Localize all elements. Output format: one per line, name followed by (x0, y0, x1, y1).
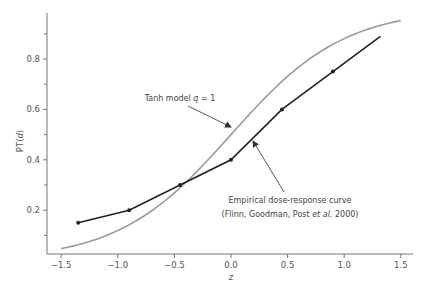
data-point (229, 158, 233, 162)
y-tick-label: 0.2 (26, 205, 40, 215)
data-point (331, 70, 335, 74)
y-tick-label: 0.8 (26, 54, 40, 64)
x-tick-label: 0.5 (281, 260, 295, 270)
x-axis-title: z (228, 272, 234, 282)
empirical-arrow-icon (253, 141, 284, 192)
y-axis-title: PT(d) (15, 130, 25, 152)
data-point (178, 183, 182, 187)
x-tick-label: −0.5 (164, 260, 185, 270)
data-point (76, 221, 80, 225)
x-ticks: −1.5−1.0−0.50.00.51.01.5 (51, 254, 408, 270)
x-tick-label: 1.0 (337, 260, 351, 270)
empirical-annotation: Empirical dose-response curve (Flinn, Go… (222, 141, 359, 219)
y-tick-label: 0.6 (26, 104, 40, 114)
axes: 0.20.40.60.8 −1.5−1.0−0.50.00.51.01.5 (26, 13, 413, 270)
tanh-annotation-label: Tanh model q = 1 (144, 94, 216, 103)
tanh-arrow-icon (188, 106, 231, 127)
x-tick-label: −1.5 (51, 260, 72, 270)
data-point (280, 107, 284, 111)
empirical-annotation-line2: (Flinn, Goodman, Post et al. 2000) (222, 210, 359, 219)
empirical-annotation-line1: Empirical dose-response curve (229, 196, 352, 205)
x-tick-label: 0.0 (224, 260, 238, 270)
dose-response-chart: 0.20.40.60.8 −1.5−1.0−0.50.00.51.01.5 z … (0, 0, 423, 294)
data-point (127, 208, 131, 212)
empirical-curve (78, 36, 380, 222)
y-ticks: 0.20.40.60.8 (26, 34, 47, 236)
y-tick-label: 0.4 (26, 155, 40, 165)
tanh-annotation: Tanh model q = 1 (144, 94, 231, 127)
x-tick-label: 1.5 (394, 260, 408, 270)
x-tick-label: −1.0 (107, 260, 128, 270)
